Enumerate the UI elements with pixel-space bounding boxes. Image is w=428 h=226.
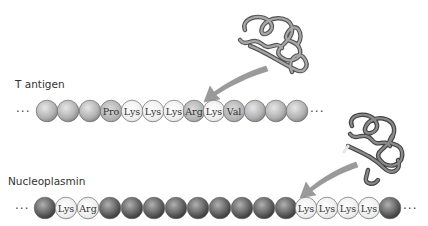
amino-acid-bead xyxy=(286,100,308,122)
amino-acid-bead xyxy=(265,100,287,122)
amino-acid-bead xyxy=(143,197,165,219)
amino-acid-bead-arg: Arg xyxy=(77,197,99,219)
arrow-bottom-icon xyxy=(300,162,358,198)
amino-acid-bead xyxy=(253,197,275,219)
amino-acid-bead xyxy=(209,197,231,219)
amino-acid-bead-lys: Lys xyxy=(337,197,359,219)
t-antigen-trailing-ellipsis: ... xyxy=(310,101,324,115)
amino-acid-bead xyxy=(379,197,401,219)
t-antigen-leading-ellipsis: ... xyxy=(16,101,30,115)
amino-acid-label: Lys xyxy=(145,106,162,117)
amino-acid-label: Lys xyxy=(124,106,141,117)
folded-protein-top-icon xyxy=(240,17,306,72)
nucleoplasmin-label: Nucleoplasmin xyxy=(8,175,85,187)
amino-acid-label: Val xyxy=(226,106,242,117)
nucleoplasmin-leading-ellipsis: ... xyxy=(15,198,29,212)
folded-protein-bottom-icon xyxy=(344,115,402,184)
t-antigen-label: T antigen xyxy=(15,78,65,90)
amino-acid-label: Pro xyxy=(103,106,120,117)
amino-acid-bead-lys: Lys xyxy=(142,100,164,122)
amino-acid-bead xyxy=(121,197,143,219)
amino-acid-bead xyxy=(57,100,79,122)
amino-acid-bead xyxy=(36,100,58,122)
amino-acid-bead-lys: Lys xyxy=(358,197,380,219)
amino-acid-label: Lys xyxy=(206,106,223,117)
amino-acid-label: Lys xyxy=(340,203,357,214)
amino-acid-label: Arg xyxy=(78,203,96,214)
amino-acid-bead-pro: Pro xyxy=(100,100,122,122)
amino-acid-bead-lys: Lys xyxy=(295,197,317,219)
amino-acid-label: Lys xyxy=(166,106,183,117)
t-antigen-chain: ProLysLysLysArgLysVal xyxy=(36,100,308,122)
arrow-top-icon xyxy=(204,66,268,102)
amino-acid-bead xyxy=(187,197,209,219)
amino-acid-bead-lys: Lys xyxy=(203,100,225,122)
amino-acid-bead xyxy=(244,100,266,122)
amino-acid-bead-lys: Lys xyxy=(316,197,338,219)
amino-acid-bead xyxy=(34,197,56,219)
amino-acid-bead xyxy=(231,197,253,219)
nucleoplasmin-trailing-ellipsis: ... xyxy=(403,198,417,212)
amino-acid-bead-lys: Lys xyxy=(121,100,143,122)
amino-acid-bead xyxy=(275,197,297,219)
diagram-canvas: ProLysLysLysArgLysVal LysArgLysLysLysLys xyxy=(0,0,428,226)
amino-acid-label: Lys xyxy=(361,203,378,214)
amino-acid-bead-arg: Arg xyxy=(183,100,205,122)
amino-acid-label: Lys xyxy=(319,203,336,214)
amino-acid-label: Arg xyxy=(184,106,202,117)
amino-acid-bead xyxy=(79,100,101,122)
amino-acid-bead xyxy=(165,197,187,219)
amino-acid-label: Lys xyxy=(58,203,75,214)
nucleoplasmin-chain: LysArgLysLysLysLys xyxy=(34,197,401,219)
amino-acid-bead xyxy=(99,197,121,219)
amino-acid-bead-lys: Lys xyxy=(55,197,77,219)
amino-acid-label: Lys xyxy=(298,203,315,214)
amino-acid-bead-val: Val xyxy=(223,100,245,122)
amino-acid-bead-lys: Lys xyxy=(163,100,185,122)
